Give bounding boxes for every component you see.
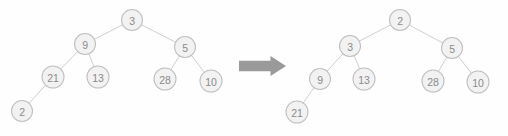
node-label-result-10: 10 (472, 77, 484, 89)
node-label-result-3: 3 (347, 41, 353, 53)
node-label-original-3: 3 (129, 15, 135, 27)
tree-node-original-21[interactable]: 21 (42, 66, 64, 88)
tree-node-result-5[interactable]: 5 (442, 38, 463, 59)
tree-node-original-9[interactable]: 9 (75, 34, 96, 55)
tree-edge-result-R2-R5 (438, 57, 447, 72)
original-tree-edges (29, 25, 205, 104)
tree-edge-original-L0-L2 (141, 25, 176, 43)
node-label-result-5: 5 (449, 43, 455, 55)
node-label-original-10: 10 (205, 76, 217, 88)
node-label-result-13: 13 (358, 74, 370, 86)
node-label-result-2: 2 (397, 15, 403, 27)
tree-edge-original-L2-L6 (191, 55, 205, 73)
arrow-icon (239, 56, 286, 76)
tree-edge-result-R1-R3 (327, 53, 344, 71)
original-tree-nodes: 395211328102 (12, 10, 223, 122)
node-label-result-9: 9 (317, 74, 323, 86)
tree-transformation-diagram: 395211328102 235913281021 (0, 0, 508, 136)
tree-node-original-3[interactable]: 3 (122, 10, 143, 31)
node-label-original-21: 21 (47, 72, 59, 84)
tree-edge-result-R0-R1 (359, 25, 391, 42)
tree-edge-result-R2-R6 (458, 56, 472, 74)
tree-edge-original-L2-L5 (171, 55, 180, 70)
tree-node-result-13[interactable]: 13 (353, 68, 375, 90)
node-label-original-9: 9 (82, 39, 88, 51)
tree-edge-original-L1-L3 (60, 51, 78, 69)
tree-edge-original-L0-L1 (94, 25, 123, 40)
tree-edge-original-L1-L4 (89, 53, 94, 67)
tree-edge-result-R3-R7 (303, 87, 314, 103)
tree-node-original-10[interactable]: 10 (200, 70, 222, 92)
node-label-result-28: 28 (427, 76, 439, 88)
node-label-result-21: 21 (291, 107, 303, 119)
tree-node-result-9[interactable]: 9 (310, 69, 331, 90)
tree-edge-result-R1-R4 (354, 55, 360, 69)
transformation-arrow (239, 56, 286, 76)
tree-node-result-28[interactable]: 28 (422, 70, 444, 92)
tree-node-original-2[interactable]: 2 (12, 101, 33, 122)
tree-node-result-21[interactable]: 21 (286, 101, 308, 123)
node-label-original-2: 2 (19, 106, 25, 118)
node-label-original-13: 13 (92, 72, 104, 84)
tree-node-original-13[interactable]: 13 (87, 66, 109, 88)
node-label-original-5: 5 (182, 42, 188, 54)
tree-node-result-3[interactable]: 3 (340, 36, 361, 57)
tree-edge-original-L3-L7 (29, 85, 46, 104)
diagram-canvas: 395211328102 235913281021 (0, 0, 508, 136)
tree-node-result-2[interactable]: 2 (390, 10, 411, 31)
tree-edge-result-R0-R2 (409, 25, 443, 44)
result-tree-edges (303, 25, 472, 104)
tree-node-original-28[interactable]: 28 (154, 68, 176, 90)
node-label-original-28: 28 (159, 74, 171, 86)
tree-node-result-10[interactable]: 10 (467, 71, 489, 93)
tree-node-original-5[interactable]: 5 (175, 37, 196, 58)
